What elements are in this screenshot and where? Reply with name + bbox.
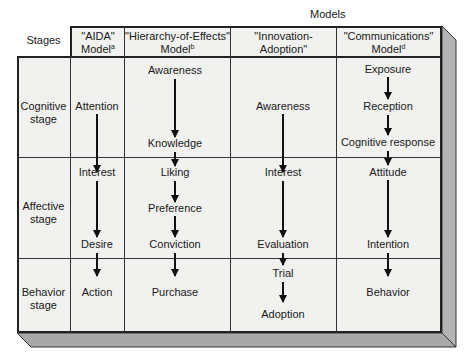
node-cognitive-response: Cognitive response xyxy=(341,136,435,148)
node-action: Action xyxy=(82,286,113,298)
node-evaluation: Evaluation xyxy=(257,238,308,250)
node-conviction: Conviction xyxy=(149,238,200,250)
column-divider xyxy=(124,56,125,333)
stage-behavior-line2: stage xyxy=(17,299,70,312)
arrow-down-icon xyxy=(174,216,176,237)
models-title: Models xyxy=(310,8,345,20)
header-hierarchy-name: "Hierarchy-of-Effects" xyxy=(125,30,230,43)
arrow-down-icon xyxy=(96,114,98,172)
node-reception: Reception xyxy=(363,100,413,112)
stages-header: Stages xyxy=(17,34,70,46)
footnote-a: a xyxy=(111,43,115,50)
arrow-down-icon xyxy=(96,253,98,276)
stage-cognitive: Cognitivestage xyxy=(17,100,70,126)
header-innovation-name: "Innovation-Adoption" xyxy=(231,30,336,56)
header-hierarchy: "Hierarchy-of-Effects" Modelb xyxy=(124,26,230,56)
arrow-down-icon xyxy=(174,253,176,276)
header-hierarchy-sub: Model xyxy=(161,43,191,55)
node-attitude: Attitude xyxy=(369,166,406,178)
arrow-down-icon xyxy=(387,115,389,135)
arrow-down-icon xyxy=(387,180,389,237)
stage-behavior-line1: Behavior xyxy=(17,286,70,299)
node-adoption: Adoption xyxy=(261,308,304,320)
arrow-down-icon xyxy=(174,181,176,202)
node-intention: Intention xyxy=(367,238,409,250)
row-divider xyxy=(17,258,442,259)
stage-affective: Affectivestage xyxy=(17,200,70,226)
arrow-down-icon xyxy=(282,282,284,302)
header-communications-name: "Communications" xyxy=(337,30,440,43)
arrow-down-icon xyxy=(282,114,284,172)
header-aida-name: "AIDA" xyxy=(72,30,124,43)
node-liking: Liking xyxy=(161,166,190,178)
stage-affective-line1: Affective xyxy=(17,200,70,213)
arrow-down-icon xyxy=(282,253,284,265)
arrow-down-icon xyxy=(387,151,389,165)
node-knowledge: Knowledge xyxy=(148,137,202,149)
node-awareness: Awareness xyxy=(148,64,202,76)
stage-cognitive-line1: Cognitive xyxy=(17,100,70,113)
header-communications-sub: Model xyxy=(372,43,402,55)
header-aida-sub: Model xyxy=(81,43,111,55)
arrow-down-icon xyxy=(174,152,176,166)
footnote-b: b xyxy=(191,43,195,50)
column-divider xyxy=(230,56,231,333)
column-divider xyxy=(336,56,337,333)
arrow-down-icon xyxy=(174,79,176,137)
node-exposure: Exposure xyxy=(365,63,411,75)
node-preference: Preference xyxy=(148,202,202,214)
node-purchase: Purchase xyxy=(152,286,198,298)
node-desire: Desire xyxy=(81,238,113,250)
header-innovation: "Innovation-Adoption" Modelc xyxy=(230,26,336,56)
header-aida: "AIDA" Modela xyxy=(70,26,124,56)
footnote-d: d xyxy=(402,43,406,50)
arrow-down-icon xyxy=(282,181,284,237)
stage-cognitive-line2: stage xyxy=(17,113,70,126)
row-divider xyxy=(17,157,442,158)
column-divider xyxy=(70,56,71,333)
node-interest: Interest xyxy=(265,166,302,178)
arrow-down-icon xyxy=(387,253,389,276)
stage-affective-line2: stage xyxy=(17,213,70,226)
node-attention: Attention xyxy=(75,100,118,112)
node-behavior: Behavior xyxy=(366,286,409,298)
node-interest: Interest xyxy=(79,166,116,178)
arrow-down-icon xyxy=(96,181,98,237)
header-communications: "Communications" Modeld xyxy=(336,26,442,56)
stage-behavior: Behaviorstage xyxy=(17,286,70,312)
arrow-down-icon xyxy=(387,77,389,99)
node-trial: Trial xyxy=(273,267,294,279)
node-awareness: Awareness xyxy=(256,100,310,112)
